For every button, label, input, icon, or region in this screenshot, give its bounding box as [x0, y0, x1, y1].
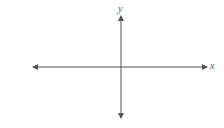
coordinate-plane: y x — [0, 0, 224, 128]
x-axis-label: x — [210, 61, 214, 71]
y-axis-label: y — [118, 4, 122, 14]
axes-graphic — [0, 0, 224, 128]
